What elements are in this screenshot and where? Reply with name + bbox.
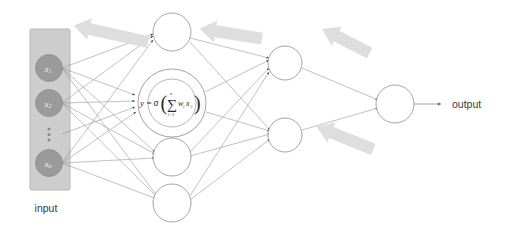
edge-h2a-out (302, 68, 378, 100)
input-node-x2[interactable]: x2 (36, 90, 63, 117)
edge-xn-h1c (62, 158, 155, 163)
backprop-arrow-2-shape (198, 18, 264, 50)
ellipsis-dot-3 (48, 139, 51, 142)
backprop-arrow-1 (71, 15, 150, 53)
formula-sum-symbol: ∑ (167, 97, 177, 112)
edge-h1c-h2b (190, 134, 270, 156)
hidden1-node-1[interactable] (153, 13, 191, 51)
backprop-arrow-4 (313, 116, 378, 159)
backprop-arrow-4-shape (313, 116, 378, 159)
output-layer (376, 85, 441, 123)
backprop-arrow-1-shape (71, 15, 150, 53)
edge-xn-h1d (62, 163, 157, 199)
neural-network-svg: x1 x2 xn input (0, 0, 505, 247)
edge-h2b-out (302, 108, 378, 130)
hidden2-node-1[interactable] (268, 46, 302, 80)
input-ellipsis (48, 128, 51, 142)
hidden1-node-3[interactable] (153, 138, 191, 176)
input-panel: x1 x2 xn (30, 29, 70, 190)
formula-activation-sigma: σ (154, 98, 159, 108)
edge-h1d-h2b (190, 139, 270, 200)
formula-paren-close: ) (194, 92, 201, 115)
hidden-layer-1 (138, 13, 206, 222)
formula-y: y (139, 98, 144, 108)
diagram-canvas: x1 x2 xn input (0, 0, 505, 247)
input-label: input (35, 202, 58, 214)
backprop-arrow-2 (198, 18, 264, 50)
hidden2-node-2[interactable] (268, 118, 302, 152)
formula-sum-lower-limit: i=1 (168, 112, 175, 117)
backprop-arrow-3 (317, 19, 374, 63)
hidden1-node-4[interactable] (153, 184, 191, 222)
output-node[interactable] (376, 85, 414, 123)
hidden-layer-2 (268, 46, 302, 152)
edge-x1-h1b (62, 68, 135, 95)
backprop-arrow-3-shape (317, 19, 374, 63)
formula-equals: = (147, 98, 152, 108)
edge-h1b-h2b (206, 112, 270, 131)
input-node-x1[interactable]: x1 (36, 55, 63, 82)
edges-hidden2-to-output (302, 68, 378, 130)
output-label: output (452, 98, 481, 110)
ellipsis-dot-2 (48, 133, 51, 136)
input-node-xn[interactable]: xn (36, 150, 63, 177)
formula-input-x: x (185, 99, 190, 108)
backprop-arrows (71, 15, 377, 160)
ellipsis-dot-1 (48, 128, 51, 131)
